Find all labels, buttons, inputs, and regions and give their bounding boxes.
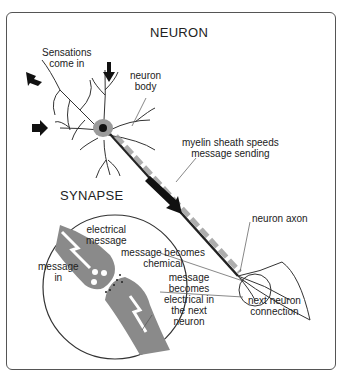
label-myelin: myelin sheath speeds message sending: [182, 137, 279, 159]
label-becomes-electrical: message becomes electrical in the next n…: [164, 272, 214, 327]
arrow-icon: [32, 120, 48, 136]
label-axon: neuron axon: [252, 213, 308, 224]
nucleus: [99, 124, 107, 132]
label-electrical-message: electrical message: [86, 224, 127, 246]
label-neuron-body: neuron body: [130, 70, 161, 92]
label-message-in: message in: [38, 261, 79, 283]
arrow-icon: [26, 72, 42, 86]
label-sensations: Sensations come in: [42, 47, 91, 69]
label-becomes-chemical: message becomes chemical: [121, 247, 205, 269]
diagram-title: NEURON: [150, 25, 208, 40]
synapse-title: SYNAPSE: [60, 188, 124, 203]
label-next-connection: next neuron connection: [248, 295, 301, 317]
